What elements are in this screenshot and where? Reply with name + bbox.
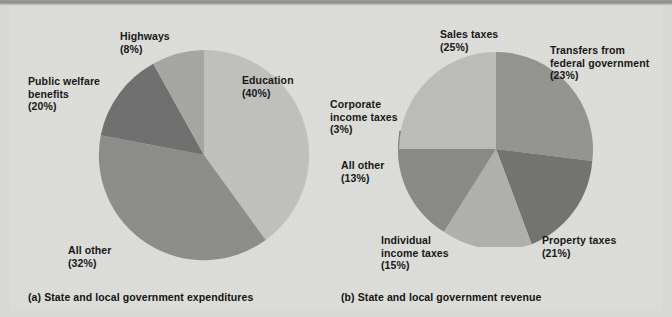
caption-panel-a: (a) State and local government expenditu…	[28, 291, 253, 303]
label-highways: Highways (8%)	[120, 30, 170, 55]
pie-slice-sales-taxes	[399, 52, 496, 149]
label-corporate-line2: income taxes	[330, 111, 398, 124]
label-property-taxes: Property taxes (21%)	[542, 234, 616, 259]
label-all-other-b-pct: (13%)	[341, 172, 385, 185]
label-all-other-b: All other (13%)	[341, 159, 385, 184]
label-sales-taxes-name: Sales taxes	[440, 28, 498, 40]
page-edge-band	[0, 0, 672, 5]
label-property-taxes-pct: (21%)	[542, 247, 616, 260]
label-transfers-line1: Transfers from	[550, 44, 625, 56]
label-public-welfare-pct: (20%)	[28, 100, 100, 113]
label-education-name: Education	[242, 74, 294, 86]
label-individual-income-taxes: Individual income taxes (15%)	[381, 234, 449, 272]
label-transfers: Transfers from federal government (23%)	[550, 44, 649, 82]
label-all-other-a-pct: (32%)	[68, 257, 112, 270]
panel-expenditures: Highways (8%) Education (40%) Public wel…	[10, 6, 336, 311]
label-highways-pct: (8%)	[120, 43, 170, 56]
label-individual-pct: (15%)	[381, 259, 449, 272]
label-transfers-pct: (23%)	[550, 69, 649, 82]
label-education-pct: (40%)	[242, 87, 294, 100]
label-individual-line1: Individual	[381, 234, 431, 246]
label-sales-taxes-pct: (25%)	[440, 41, 498, 54]
caption-panel-b: (b) State and local government revenue	[341, 291, 541, 303]
label-public-welfare-line2: benefits	[28, 88, 100, 101]
figure-container: Highways (8%) Education (40%) Public wel…	[0, 0, 672, 317]
label-corporate-line1: Corporate	[330, 98, 381, 110]
label-corporate-income-taxes: Corporate income taxes (3%)	[330, 98, 398, 136]
label-public-welfare: Public welfare benefits (20%)	[28, 75, 100, 113]
label-property-taxes-name: Property taxes	[542, 234, 616, 246]
label-all-other-a: All other (32%)	[68, 244, 112, 269]
label-transfers-line2: federal government	[550, 57, 649, 70]
label-education: Education (40%)	[242, 74, 294, 99]
label-public-welfare-line1: Public welfare	[28, 75, 100, 87]
figure-paper: Highways (8%) Education (40%) Public wel…	[10, 6, 662, 311]
label-all-other-b-name: All other	[341, 159, 385, 171]
label-all-other-a-name: All other	[68, 244, 112, 256]
panel-revenue: Sales taxes (25%) Transfers from federal…	[336, 6, 662, 311]
label-highways-name: Highways	[120, 30, 170, 42]
label-sales-taxes: Sales taxes (25%)	[440, 28, 498, 53]
label-individual-line2: income taxes	[381, 247, 449, 260]
label-corporate-pct: (3%)	[330, 123, 398, 136]
